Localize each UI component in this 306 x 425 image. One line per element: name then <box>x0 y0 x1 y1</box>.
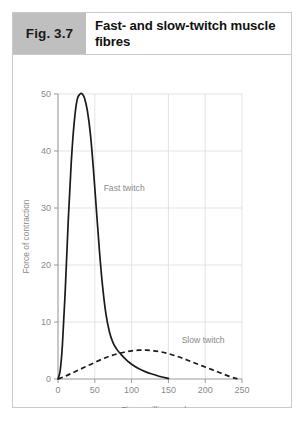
svg-text:150: 150 <box>161 385 176 395</box>
figure-title-box: Fast- and slow-twitch muscle fibres <box>86 13 291 54</box>
figure-card: Fig. 3.7 Fast- and slow-twitch muscle fi… <box>12 12 292 408</box>
svg-text:50: 50 <box>90 385 100 395</box>
svg-text:30: 30 <box>41 203 51 213</box>
chart-svg: 01020304050 050100150200250 Fast twitch … <box>13 56 291 408</box>
figure-title: Fast- and slow-twitch muscle fibres <box>95 18 287 49</box>
svg-text:100: 100 <box>124 385 139 395</box>
series-line-slow-twitch <box>58 350 239 379</box>
x-axis-tick-labels: 050100150200250 <box>55 385 249 395</box>
y-axis-ticks <box>54 94 58 379</box>
figure-header: Fig. 3.7 Fast- and slow-twitch muscle fi… <box>13 13 291 55</box>
svg-text:200: 200 <box>198 385 213 395</box>
svg-text:10: 10 <box>41 317 51 327</box>
plot-region: 01020304050 050100150200250 Fast twitch … <box>13 56 291 408</box>
svg-text:50: 50 <box>41 89 51 99</box>
svg-text:250: 250 <box>234 385 249 395</box>
series-annotation-slow-twitch: Slow twitch <box>182 335 225 345</box>
figure-number-label: Fig. 3.7 <box>26 26 73 41</box>
y-axis-tick-labels: 01020304050 <box>41 89 51 384</box>
figure-number-box: Fig. 3.7 <box>13 13 86 54</box>
svg-text:20: 20 <box>41 260 51 270</box>
series-line-fast-twitch <box>58 93 168 379</box>
y-axis-title: Force of contraction <box>21 199 31 273</box>
svg-text:0: 0 <box>46 374 51 384</box>
svg-text:0: 0 <box>55 385 60 395</box>
x-axis-ticks <box>58 379 242 383</box>
x-axis-title: Time, milliseconds <box>122 405 191 408</box>
series-annotation-fast-twitch: Fast twitch <box>104 183 145 193</box>
svg-text:40: 40 <box>41 146 51 156</box>
gridlines-horizontal <box>58 94 242 322</box>
